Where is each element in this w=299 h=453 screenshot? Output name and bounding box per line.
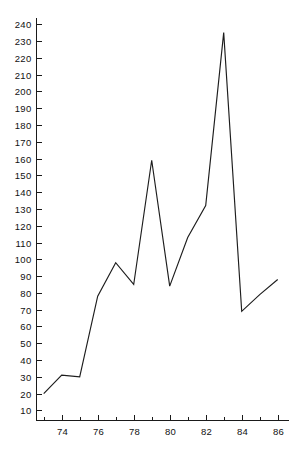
y-tick-label: 40	[20, 355, 31, 366]
y-tick-label: 30	[20, 372, 31, 383]
x-tick-label: 82	[201, 426, 212, 437]
line-chart: 1020304050607080901001101201301401501601…	[0, 0, 299, 453]
chart-plot-area: 1020304050607080901001101201301401501601…	[0, 0, 299, 453]
x-axis: 74767880828486	[37, 415, 289, 437]
y-tick-label: 230	[15, 36, 32, 47]
y-tick-label: 160	[15, 154, 32, 165]
x-tick-label: 74	[57, 426, 68, 437]
y-tick-label: 20	[20, 389, 31, 400]
x-tick-label: 76	[93, 426, 104, 437]
y-tick-label: 190	[15, 103, 32, 114]
x-tick-label: 78	[129, 426, 140, 437]
y-axis-ticks	[37, 25, 42, 411]
y-tick-label: 200	[15, 86, 32, 97]
y-tick-label: 220	[15, 53, 32, 64]
y-tick-label: 170	[15, 137, 32, 148]
y-tick-label: 10	[20, 405, 31, 416]
y-tick-label: 210	[15, 70, 32, 81]
y-tick-label: 100	[15, 254, 32, 265]
y-tick-label: 150	[15, 170, 32, 181]
x-tick-label: 84	[237, 426, 248, 437]
x-tick-label: 86	[273, 426, 284, 437]
y-tick-label: 90	[20, 271, 31, 282]
y-axis: 1020304050607080901001101201301401501601…	[15, 18, 42, 421]
y-tick-label: 180	[15, 120, 32, 131]
y-axis-tick-labels: 1020304050607080901001101201301401501601…	[15, 19, 32, 416]
y-tick-label: 120	[15, 221, 32, 232]
y-tick-label: 60	[20, 321, 31, 332]
data-series-line	[44, 33, 278, 394]
x-axis-ticks	[45, 415, 279, 421]
y-tick-label: 240	[15, 19, 32, 30]
y-tick-label: 80	[20, 288, 31, 299]
y-tick-label: 140	[15, 187, 32, 198]
y-tick-label: 70	[20, 305, 31, 316]
y-tick-label: 110	[15, 238, 31, 249]
y-tick-label: 50	[20, 338, 31, 349]
y-tick-label: 130	[15, 204, 32, 215]
x-axis-tick-labels: 74767880828486	[57, 426, 284, 437]
x-tick-label: 80	[165, 426, 176, 437]
